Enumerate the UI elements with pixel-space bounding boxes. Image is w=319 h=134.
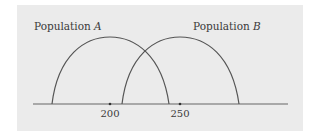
- tick-label-200: 200: [100, 108, 119, 119]
- population-b-label-text: Population: [193, 20, 253, 32]
- population-a-label-text: Population: [34, 20, 94, 32]
- population-b-label-letter: B: [252, 20, 261, 32]
- tick-mark-200: [109, 103, 112, 106]
- population-diagram: 200 250 Population A Population B: [0, 0, 319, 134]
- tick-mark-250: [179, 103, 182, 106]
- tick-label-250: 250: [170, 108, 189, 119]
- population-b-label: Population B: [193, 20, 261, 32]
- population-a-curve: [52, 37, 169, 104]
- population-a-label: Population A: [34, 20, 102, 32]
- population-a-label-letter: A: [93, 20, 102, 32]
